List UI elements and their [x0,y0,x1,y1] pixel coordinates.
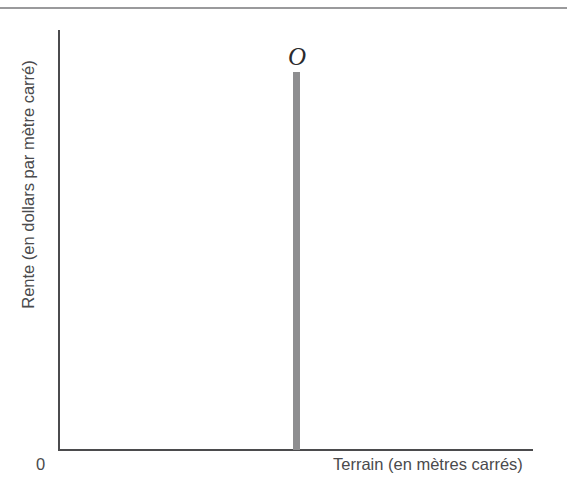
origin-tick-label: 0 [36,455,45,474]
supply-curve-vertical-line [293,72,300,450]
top-divider-rule [0,7,567,9]
y-axis-title: Rente (en dollars par mètre carré) [19,25,38,345]
x-axis-title: Terrain (en mètres carrés) [333,455,523,474]
chart-figure: O Rente (en dollars par mètre carré) Ter… [0,0,567,501]
supply-curve-label: O [284,43,310,71]
y-axis-line [58,30,60,451]
